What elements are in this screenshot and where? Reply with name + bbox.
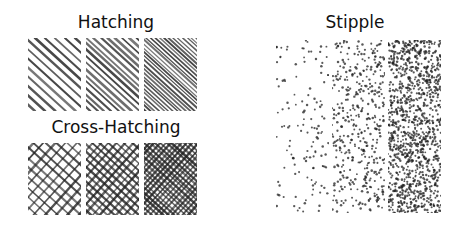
- texture-illustration: [0, 0, 471, 227]
- hatching-panel-light: [0, 38, 235, 111]
- stipple-panel-light: [275, 39, 329, 212]
- stipple-panel-medium: [331, 40, 386, 214]
- stipple-panel-dense: [387, 39, 442, 214]
